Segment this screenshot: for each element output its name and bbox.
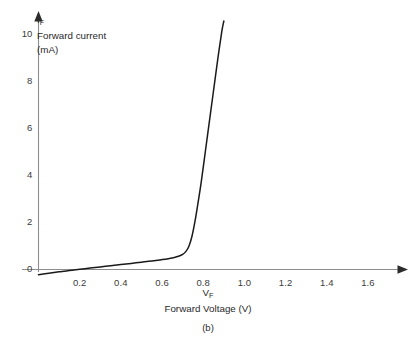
- y-axis-label: IF Forward current (mA): [37, 13, 106, 56]
- y-tick-label: 4: [15, 169, 33, 180]
- diode-curve: [39, 21, 224, 275]
- y-tick-label: 0: [15, 263, 33, 274]
- y-tick-label: 10: [15, 28, 33, 39]
- x-axis-symbol: VF: [0, 286, 416, 302]
- x-tick-label: 1.6: [355, 277, 381, 288]
- y-axis-unit: (mA): [37, 43, 106, 57]
- x-tick-label: 1.0: [231, 277, 257, 288]
- y-axis-symbol: IF: [37, 13, 106, 29]
- x-tick-label: 1.2: [273, 277, 299, 288]
- x-tick-label: 0.6: [149, 277, 175, 288]
- x-axis-arrowhead: [398, 265, 409, 274]
- y-tick-label: 2: [15, 216, 33, 227]
- x-tick-label: 0.8: [190, 277, 216, 288]
- diode-iv-characteristic-figure: IF Forward current (mA) VF Forward Volta…: [0, 0, 416, 341]
- x-tick-label: 0.4: [108, 277, 134, 288]
- x-axis-label: VF Forward Voltage (V): [0, 286, 416, 315]
- y-tick-label: 6: [15, 122, 33, 133]
- y-axis-name: Forward current: [37, 29, 106, 43]
- figure-caption: (b): [0, 322, 416, 333]
- y-tick-label: 8: [15, 75, 33, 86]
- x-axis-name: Forward Voltage (V): [0, 302, 416, 315]
- x-tick-label: 0.2: [67, 277, 93, 288]
- x-tick-label: 1.4: [314, 277, 340, 288]
